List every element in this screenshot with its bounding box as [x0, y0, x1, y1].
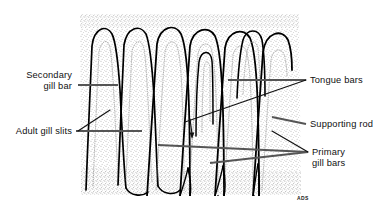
label-primary-gill-bars-line2: gill bars [312, 158, 346, 168]
label-secondary-gill-bar-line1: Secondary [26, 70, 72, 80]
label-adult-gill-slits: Adult gill slits [16, 126, 72, 136]
label-tongue-bars: Tongue bars [310, 75, 363, 85]
gill-bar-figure: Secondary gill bar Adult gill slits Tong… [0, 0, 388, 214]
label-supporting-rod: Supporting rod [310, 119, 373, 129]
label-secondary-gill-bar-line2: gill bar [43, 81, 72, 91]
artist-signature: ADS [297, 195, 309, 201]
label-primary-gill-bars-line1: Primary [312, 147, 345, 157]
